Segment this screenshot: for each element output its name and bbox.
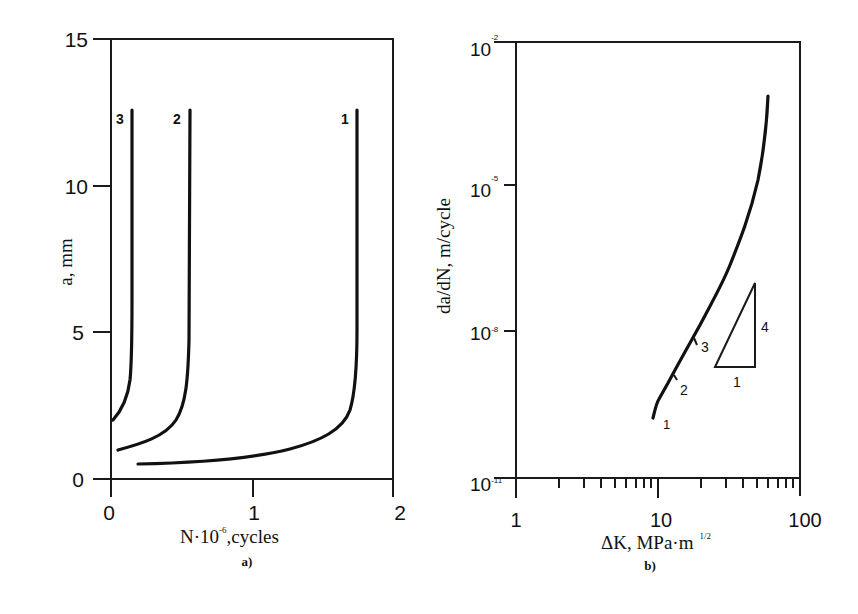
x-tick-label-2: 2 [394,501,406,524]
slope-label-vertical: 4 [761,319,769,335]
point-marker-2 [674,375,677,380]
panel-b-y-axis-title: da/dN, m/cycle [433,198,454,314]
y-tick-label-5: 5 [72,321,84,344]
x-tick-label-1: 1 [248,501,260,524]
panel-a-chart: 15 10 5 0 0 1 2 a, mm N·10-6,cycles a) 3… [55,28,406,569]
slope-label-horizontal: 1 [733,374,741,390]
curve-label-1: 1 [341,111,349,127]
y-tick-label-1e-5: 10-5 [470,174,499,201]
curve-label-3: 3 [116,111,124,127]
point-label-2: 2 [680,382,688,398]
point-marker-3 [694,338,697,345]
panel-a-label: a) [242,554,253,569]
x-tick-label-0: 0 [103,501,115,524]
panel-a-y-axis-title: a, mm [55,238,76,286]
x-tick-label-100: 100 [788,509,821,531]
y-tick-label-1e-2: 10-2 [470,33,499,60]
figure: 15 10 5 0 0 1 2 a, mm N·10-6,cycles a) 3… [0,0,858,614]
panel-a-curve-2 [118,110,190,450]
panel-b-x-axis-title: ΔK, MPa·m1/2 [601,531,711,553]
panel-b-curve [653,96,768,418]
curve-label-2: 2 [173,111,181,127]
y-tick-label-10: 10 [65,175,88,198]
y-tick-label-0: 0 [72,468,84,491]
panel-a-curve-3 [113,110,132,420]
y-tick-label-1e-11: 10-11 [470,474,503,495]
panel-b-label: b) [644,558,656,573]
panel-a-x-axis-title: N·10-6,cycles [180,525,279,547]
y-tick-label-15: 15 [65,28,88,51]
minor-x-ticks [559,478,793,488]
panel-a-curve-1 [138,110,357,464]
x-tick-label-1: 1 [510,509,521,531]
y-tick-label-1e-8: 10-8 [470,323,499,344]
x-tick-label-10: 10 [650,509,672,531]
point-label-3: 3 [701,339,709,355]
panel-b-frame [516,42,800,478]
slope-triangle [715,283,755,367]
panel-a-frame [111,39,393,479]
panel-b-chart: 10-2 10-5 10-8 10-11 1 10 100 da/dN, m/c… [433,33,822,573]
point-label-1: 1 [663,417,670,432]
